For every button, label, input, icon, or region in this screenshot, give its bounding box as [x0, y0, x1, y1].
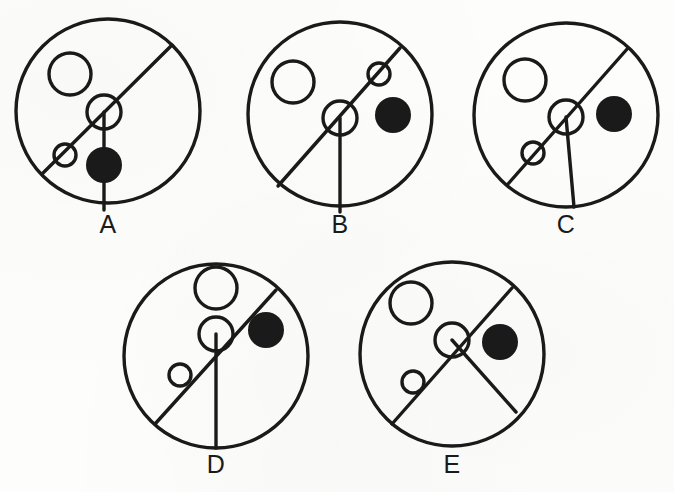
figure-label-d: D: [196, 452, 236, 477]
figure-c: C: [458, 0, 674, 230]
open-circle: [272, 61, 314, 103]
open-circle: [390, 282, 432, 324]
filled-circle: [596, 96, 632, 132]
open-circle: [504, 59, 546, 101]
open-circle: [195, 267, 237, 309]
figure-label-b: B: [320, 212, 360, 237]
figure-c-drawing: [458, 0, 674, 230]
figure-d: D: [120, 244, 336, 492]
figure-a-drawing: [0, 0, 230, 230]
figure-e: E: [356, 244, 572, 492]
filled-circle: [375, 97, 411, 133]
figure-label-e: E: [432, 452, 472, 477]
figure-series-canvas: A B: [0, 0, 674, 492]
figure-label-a: A: [88, 212, 128, 237]
figure-a: A: [0, 0, 230, 230]
bead-circle: [169, 364, 191, 386]
bead-circle: [402, 371, 424, 393]
figure-label-c: C: [546, 212, 586, 237]
open-circle: [49, 53, 91, 95]
stem-line: [566, 117, 574, 207]
figure-b-drawing: [232, 0, 462, 230]
filled-circle: [86, 147, 122, 183]
filled-circle: [248, 312, 284, 348]
bead-circle: [54, 144, 76, 166]
bead-circle: [522, 142, 544, 164]
filled-circle: [482, 324, 518, 360]
figure-b: B: [232, 0, 462, 230]
